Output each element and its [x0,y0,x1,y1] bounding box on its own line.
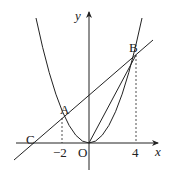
point-b-label: B [129,41,138,54]
y-axis-label: y [75,9,81,22]
tick-label-4: 4 [132,146,139,159]
x-axis-label: x [155,145,161,158]
diagram: y x O A B C −2 4 [0,0,173,177]
point-a-label: A [60,103,69,116]
segment-ob [89,55,136,143]
origin-label: O [78,146,87,159]
point-c-label: C [26,133,35,146]
tick-label-neg2: −2 [53,146,67,159]
